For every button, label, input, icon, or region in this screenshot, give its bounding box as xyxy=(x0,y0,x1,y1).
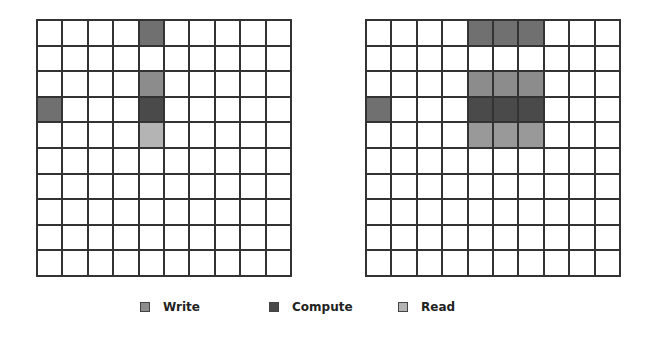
grid-cell xyxy=(468,225,493,251)
grid-cell xyxy=(113,199,138,225)
grid-cell xyxy=(113,46,138,72)
grid-cell xyxy=(266,225,291,251)
grid-cell xyxy=(391,250,416,276)
grid-cell xyxy=(518,225,543,251)
grid-cell xyxy=(391,122,416,148)
grid-cell xyxy=(113,71,138,97)
grid-cell xyxy=(88,250,113,276)
grid-cell xyxy=(215,122,240,148)
grid-cell xyxy=(442,122,467,148)
grid-cell xyxy=(518,148,543,174)
grid-cell xyxy=(595,46,620,72)
grid-cell xyxy=(164,174,189,200)
grid-cell xyxy=(569,250,594,276)
grid-cell xyxy=(88,71,113,97)
grid-cell xyxy=(366,122,391,148)
grid-cell xyxy=(544,46,569,72)
grid-cell xyxy=(417,71,442,97)
grid-cell xyxy=(62,46,87,72)
grid-cell xyxy=(266,174,291,200)
grid-cell xyxy=(139,250,164,276)
grid-cell xyxy=(113,250,138,276)
grid-cell xyxy=(442,46,467,72)
grid-cell xyxy=(442,71,467,97)
grid-cell xyxy=(544,71,569,97)
grid-cell xyxy=(189,225,214,251)
grid-cell xyxy=(493,174,518,200)
grid-cell xyxy=(164,199,189,225)
grid-cell xyxy=(391,20,416,46)
grid-cell xyxy=(139,20,164,46)
grid-cell xyxy=(189,199,214,225)
compute-swatch-icon xyxy=(269,302,279,312)
grid-cell xyxy=(215,148,240,174)
grid-cell xyxy=(113,225,138,251)
grid-cell xyxy=(266,46,291,72)
grid-cell xyxy=(544,250,569,276)
grid-cell xyxy=(366,199,391,225)
grid-cell xyxy=(189,71,214,97)
grid-cell xyxy=(391,225,416,251)
grid-cell xyxy=(240,46,265,72)
grid-cell xyxy=(139,174,164,200)
grid-cell xyxy=(518,250,543,276)
read-swatch-icon xyxy=(398,302,408,312)
grid-cell xyxy=(417,199,442,225)
grid-cell xyxy=(88,122,113,148)
grid-cell xyxy=(468,20,493,46)
grid-cell xyxy=(189,46,214,72)
grid-cell xyxy=(189,97,214,123)
grid-cell xyxy=(595,20,620,46)
grid-cell xyxy=(164,46,189,72)
grid-cell xyxy=(240,20,265,46)
grid-cell xyxy=(569,148,594,174)
grid-cell xyxy=(595,199,620,225)
grid-cell xyxy=(88,20,113,46)
grid-cell xyxy=(468,46,493,72)
grid-cell xyxy=(417,225,442,251)
grid-cell xyxy=(569,199,594,225)
grid-cell xyxy=(391,71,416,97)
grid-cell xyxy=(215,199,240,225)
grid-cell xyxy=(189,250,214,276)
grid-cell xyxy=(113,20,138,46)
grid-cell xyxy=(189,148,214,174)
grid-cell xyxy=(468,250,493,276)
grid-cell xyxy=(164,71,189,97)
grid-cell xyxy=(88,174,113,200)
grid-cell xyxy=(391,97,416,123)
grid-cell xyxy=(37,122,62,148)
grid-cell xyxy=(518,199,543,225)
grid-cell xyxy=(417,122,442,148)
grid-cell xyxy=(391,199,416,225)
grid-cell xyxy=(391,148,416,174)
grid-cell xyxy=(88,46,113,72)
grid-cell xyxy=(468,199,493,225)
grid-cell xyxy=(595,174,620,200)
grid-cell xyxy=(88,97,113,123)
grid-cell xyxy=(493,250,518,276)
grid-cell xyxy=(113,174,138,200)
grid-cell xyxy=(113,122,138,148)
grid-cell xyxy=(266,97,291,123)
grid-cell xyxy=(37,174,62,200)
grid-cell xyxy=(569,46,594,72)
grid-cell xyxy=(417,174,442,200)
grid-cell xyxy=(493,20,518,46)
grid-cell xyxy=(62,97,87,123)
grid-cell xyxy=(139,122,164,148)
grid-cell xyxy=(266,122,291,148)
grid-cell xyxy=(442,199,467,225)
grid-cell xyxy=(113,97,138,123)
grid-cell xyxy=(266,20,291,46)
grid-cell xyxy=(493,71,518,97)
grid-cell xyxy=(468,122,493,148)
grid-cell xyxy=(215,225,240,251)
grid-cell xyxy=(62,225,87,251)
grid-cell xyxy=(391,46,416,72)
grid-cell xyxy=(442,20,467,46)
grid-cell xyxy=(266,199,291,225)
legend-item-compute: Compute xyxy=(269,300,353,314)
grid-cell xyxy=(189,20,214,46)
grid-cell xyxy=(240,97,265,123)
